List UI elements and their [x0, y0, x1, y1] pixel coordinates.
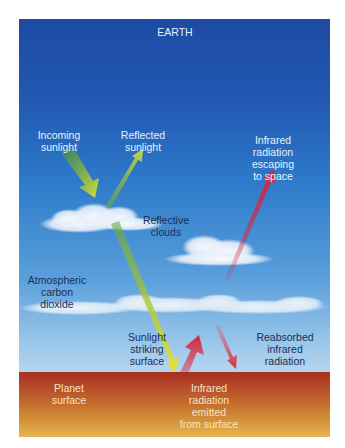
greenhouse-diagram: EARTH Incoming sunlight Reflected sunlig… — [19, 19, 330, 437]
label-planet-surface: Planet surface — [34, 382, 104, 406]
cloud-right — [164, 235, 274, 266]
label-incoming-sunlight: Incoming sunlight — [19, 129, 99, 153]
label-atmospheric-co2: Atmospheric carbon dioxide — [19, 274, 95, 310]
label-sunlight-striking: Sunlight striking surface — [107, 331, 187, 367]
reflected-sunlight-arrow — [105, 149, 143, 209]
title-earth: EARTH — [149, 26, 201, 38]
label-infrared-escaping: Infrared radiation escaping to space — [233, 134, 313, 182]
reabsorbed-infrared-arrow — [215, 324, 237, 369]
label-reflected-sunlight: Reflected sunlight — [103, 129, 183, 153]
label-reflective-clouds: Reflective clouds — [126, 214, 206, 238]
incoming-sunlight-arrow — [61, 147, 99, 198]
label-reabsorbed-infrared: Reabsorbed infrared radiation — [245, 331, 325, 367]
label-infrared-emitted: Infrared radiation emitted from surface — [164, 382, 254, 430]
